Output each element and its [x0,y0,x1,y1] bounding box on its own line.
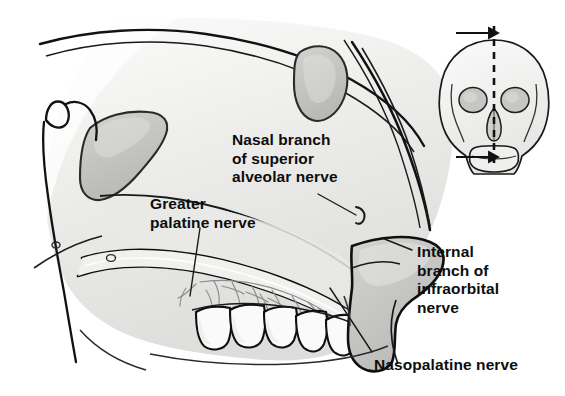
inset-orbit-left-highlight [463,92,477,103]
anatomical-figure: Nasal branch of superior alveolar nerve … [0,0,565,396]
label-internal-branch-of-infraorbital-nerve: Internal branch of infraorbital nerve [417,243,499,317]
inset-arrow-top-head [489,28,498,38]
inset-orbit-right-highlight [505,92,519,103]
skull-inset-diagram [439,26,549,174]
label-nasopalatine-nerve: Nasopalatine nerve [374,356,518,375]
tooth-4 [296,311,327,352]
label-nasal-branch-of-superior-alveolar-nerve: Nasal branch of superior alveolar nerve [232,131,338,187]
label-greater-palatine-nerve: Greater palatine nerve [150,195,256,232]
anatomy-illustration [0,0,565,396]
